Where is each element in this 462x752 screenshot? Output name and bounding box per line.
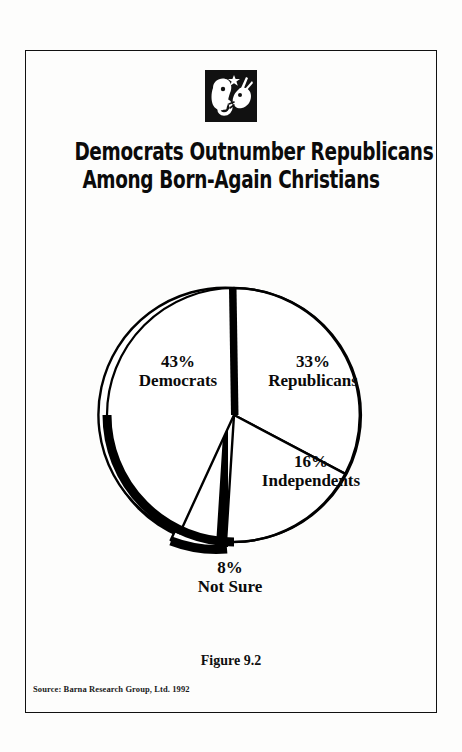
figure-title-line-2: Among Born-Again Christians: [74, 166, 387, 194]
pie-label-independents-percent: 16%: [248, 452, 374, 471]
pie-label-independents: 16% Independents: [248, 452, 374, 490]
figure-title-line-1: Democrats Outnumber Republicans: [74, 138, 387, 166]
pie-label-republicans: 33% Republicans: [253, 352, 373, 390]
pie-label-democrats-percent: 43%: [118, 352, 238, 371]
elephant-and-donkey-logo-icon: [200, 66, 262, 126]
figure-page: Democrats Outnumber Republicans Among Bo…: [0, 0, 462, 752]
pie-label-not-sure: 8% Not Sure: [175, 558, 285, 596]
figure-caption: Figure 9.2: [81, 653, 381, 669]
pie-label-independents-name: Independents: [248, 471, 374, 490]
pie-label-not-sure-name: Not Sure: [175, 577, 285, 596]
pie-label-not-sure-percent: 8%: [175, 558, 285, 577]
pie-label-republicans-percent: 33%: [253, 352, 373, 371]
figure-title: Democrats Outnumber Republicans Among Bo…: [74, 138, 387, 194]
pie-label-democrats-name: Democrats: [118, 371, 238, 390]
logo-container: [0, 66, 462, 130]
source-note: Source: Barna Research Group, Ltd. 1992: [33, 684, 190, 694]
pie-label-democrats: 43% Democrats: [118, 352, 238, 390]
pie-label-republicans-name: Republicans: [253, 371, 373, 390]
